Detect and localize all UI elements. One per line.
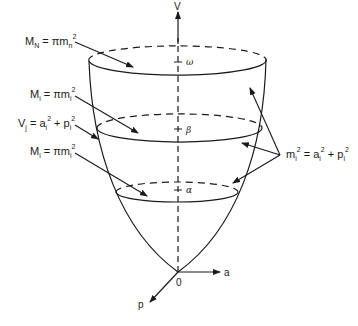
label-mi-upper-eq: Mi = πmi2: [30, 86, 76, 102]
p-axis-arrow: [150, 272, 178, 302]
pointer-vj: [75, 125, 98, 139]
paraboloid-diagram: V ω β α a p 0 MN = πmn2 Mi = πmi2 Vj = a…: [0, 0, 358, 326]
top-ellipse-back: [89, 46, 266, 61]
paraboloid-right-edge: [178, 59, 266, 272]
pointer-right-middle: [242, 143, 280, 155]
a-axis-label: a: [224, 267, 230, 278]
v-axis-label: V: [174, 1, 181, 12]
lower-ellipse-front: [116, 192, 238, 202]
label-vj-eq: Vj = ai2 + pi2: [18, 115, 75, 132]
label-mi-squared-eq: mi2 = ai2 + pi2: [286, 146, 349, 162]
middle-ellipse-front: [97, 128, 262, 142]
paraboloid-left-edge: [89, 61, 178, 272]
pointer-mn: [75, 42, 133, 67]
middle-ellipse-back: [97, 114, 262, 128]
alpha-label: α: [186, 185, 192, 195]
beta-label: β: [185, 125, 191, 135]
pointer-mi-lower: [75, 153, 147, 196]
p-axis-label: p: [138, 299, 144, 310]
label-mn-eq: MN = πmn2: [25, 33, 76, 49]
omega-label: ω: [186, 57, 194, 67]
pointer-mi-upper: [75, 96, 138, 133]
origin-label: 0: [176, 277, 182, 288]
label-mi-lower-eq: Mi = πmi2: [30, 143, 76, 159]
pointer-right-bottom: [233, 155, 280, 183]
